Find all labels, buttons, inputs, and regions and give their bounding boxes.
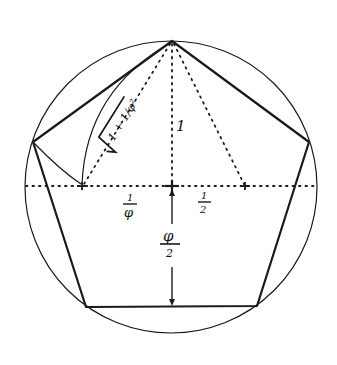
arrowhead-down-icon xyxy=(169,299,175,306)
left-marker xyxy=(77,182,88,190)
right-dotted-hypotenuse xyxy=(174,44,244,184)
apothem-label: φ 2 xyxy=(160,227,180,260)
left-segment-denominator: φ xyxy=(124,205,134,220)
apothem-numerator: φ xyxy=(163,227,174,245)
arrowhead-up-icon xyxy=(169,189,175,196)
right-segment-label: 1 2 xyxy=(198,190,211,215)
right-segment-numerator: 1 xyxy=(201,190,207,201)
left-segment-label: 1 φ xyxy=(123,192,137,220)
pentagon-diagram: 1 1 + 1/φ² 1 φ 1 2 φ 2 xyxy=(0,0,337,365)
right-marker xyxy=(240,182,250,190)
left-segment-numerator: 1 xyxy=(127,192,133,203)
hypotenuse-label-text: 1 + 1/φ² xyxy=(105,97,140,143)
hypotenuse-label: 1 + 1/φ² xyxy=(95,95,144,156)
pentagon xyxy=(33,41,309,307)
right-segment-denominator: 2 xyxy=(199,204,206,215)
apothem-denominator: 2 xyxy=(165,247,173,260)
radius-label: 1 xyxy=(176,117,186,135)
